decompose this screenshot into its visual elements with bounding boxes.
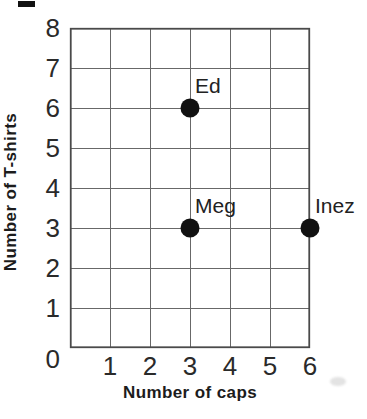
plot-grid-svg <box>70 28 310 348</box>
data-point-inez <box>301 219 320 238</box>
y-tick-label: 5 <box>24 133 60 163</box>
y-tick-label: 4 <box>24 173 60 203</box>
x-tick-label: 5 <box>254 352 286 380</box>
y-tick-label: 0 <box>24 344 60 374</box>
data-point-ed <box>181 99 200 118</box>
point-label-inez: Inez <box>315 195 355 217</box>
x-tick-label: 2 <box>134 352 166 380</box>
y-tick-label: 3 <box>24 213 60 243</box>
point-label-meg: Meg <box>195 195 236 217</box>
x-tick-label: 1 <box>94 352 126 380</box>
x-tick-label: 4 <box>214 352 246 380</box>
y-tick-label: 6 <box>24 93 60 123</box>
point-label-ed: Ed <box>195 75 221 97</box>
data-point-meg <box>181 219 200 238</box>
x-tick-label: 3 <box>174 352 206 380</box>
y-tick-label: 7 <box>24 53 60 83</box>
scan-smudge-artifact <box>330 377 346 386</box>
scatter-plot-figure: Number of T-shirts 876543210 123456 EdMe… <box>0 0 367 419</box>
y-tick-label: 2 <box>24 253 60 283</box>
x-axis-title: Number of caps <box>70 383 310 403</box>
x-tick-label: 6 <box>294 352 326 380</box>
print-artifact-mark <box>18 1 35 7</box>
plot-area <box>70 28 310 348</box>
y-axis-title: Number of T-shirts <box>0 32 22 352</box>
y-tick-label: 8 <box>24 13 60 43</box>
y-tick-label: 1 <box>24 293 60 323</box>
